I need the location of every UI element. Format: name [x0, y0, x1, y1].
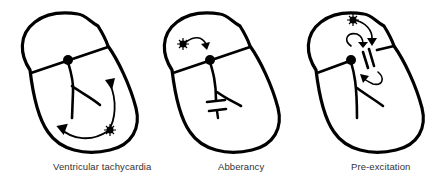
ectopic-focus-star-icon: [104, 124, 116, 136]
heart-diagram-pre-excitation: [285, 0, 436, 177]
arrow-down-icon: [201, 42, 210, 50]
panel-abberancy: Abberancy: [140, 0, 290, 177]
heart-diagram-vt: [0, 0, 150, 177]
panel-pre-excitation: Pre-excitation: [285, 0, 436, 177]
arrow-down-icon: [358, 42, 368, 48]
ectopic-focus-star-icon: [177, 38, 189, 50]
arrow-down-icon: [367, 38, 377, 46]
caption-ventricular-tachycardia: Ventricular tachycardia: [53, 161, 151, 172]
caption-pre-excitation: Pre-excitation: [351, 161, 410, 172]
heart-diagram-abberancy: [140, 0, 290, 177]
arrow-up-icon: [105, 78, 115, 90]
caption-abberancy: Abberancy: [218, 161, 264, 172]
panel-ventricular-tachycardia: Ventricular tachycardia: [0, 0, 150, 177]
ectopic-focus-star-icon: [347, 14, 359, 26]
